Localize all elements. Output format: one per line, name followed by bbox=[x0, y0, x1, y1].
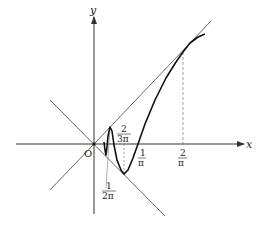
function-graph: y x O 2 3π 1 π 2 π 1 2π bbox=[0, 0, 263, 228]
tick-1-over-2pi-num: 1 bbox=[106, 181, 112, 191]
tick-1-over-pi-num: 1 bbox=[140, 148, 146, 158]
origin-point bbox=[93, 143, 96, 146]
x-axis-label: x bbox=[246, 138, 253, 151]
curve-x-sin-1-over-x bbox=[104, 34, 205, 174]
origin-label: O bbox=[84, 148, 92, 159]
tick-2-over-3pi-num: 2 bbox=[121, 124, 127, 134]
tick-2-over-pi-num: 2 bbox=[180, 148, 186, 158]
tick-1-over-pi-den: π bbox=[138, 158, 144, 168]
tick-1-over-2pi-den: 2π bbox=[102, 191, 114, 201]
y-axis-label: y bbox=[89, 4, 97, 17]
tick-2-over-3pi-den: 3π bbox=[117, 134, 129, 144]
tick-2-over-pi-den: π bbox=[178, 158, 184, 168]
